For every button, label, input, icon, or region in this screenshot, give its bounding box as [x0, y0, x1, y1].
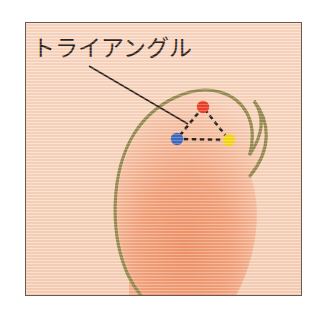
left-vertex-dot — [171, 133, 183, 145]
apex-vertex-dot — [197, 101, 209, 113]
annotation-label: トライアングル — [32, 37, 192, 60]
figure-frame: トライアングル — [25, 22, 302, 296]
figure-page: トライアングル — [0, 0, 330, 315]
right-vertex-dot — [223, 134, 235, 146]
illustration-canvas — [26, 23, 301, 295]
leader-line — [89, 66, 188, 124]
